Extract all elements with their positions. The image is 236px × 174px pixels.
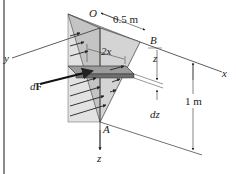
z-axis-label: z <box>96 152 102 164</box>
origin-label: O <box>89 7 97 19</box>
hydrostatic-triangle-diagram: y x z dF O 0 <box>0 0 236 174</box>
strip-extension-bottom <box>134 78 163 88</box>
strip-width-label: 2x <box>101 45 112 57</box>
depth-dimension-label: 1 m <box>185 95 202 107</box>
differential-strip <box>68 66 134 74</box>
width-dimension-label: 0.5 m <box>113 13 139 25</box>
dz-label: dz <box>150 108 161 120</box>
point-B-label: B <box>150 34 157 46</box>
strip-edge <box>76 74 134 78</box>
z-dimension-label: z <box>152 52 158 64</box>
figure-canvas: y x z dF O 0 <box>0 0 236 174</box>
strip-extension-top <box>134 74 163 84</box>
depth-reference-line <box>100 122 202 155</box>
x-axis-label: x <box>221 67 227 79</box>
y-axis-label: y <box>3 52 9 64</box>
dF-label-F: F <box>36 80 43 92</box>
dF-label: dF <box>30 80 43 92</box>
